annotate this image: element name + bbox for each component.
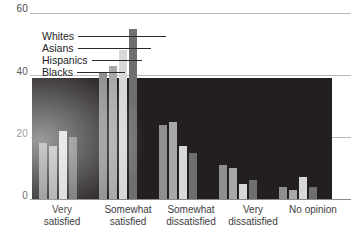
legend-leader-line bbox=[77, 72, 125, 73]
y-tick-40: 40 bbox=[4, 66, 28, 77]
legend-item-whites: Whites bbox=[42, 31, 166, 42]
x-label-line2: dissatisfied bbox=[156, 216, 226, 228]
bar-asians-2 bbox=[179, 146, 187, 199]
x-label-somewhat-satisfied: Somewhat satisfied bbox=[95, 204, 161, 228]
bar-hispanics-4 bbox=[289, 190, 297, 199]
y-tick-60: 60 bbox=[4, 3, 28, 14]
legend-leader-line bbox=[92, 60, 142, 61]
legend-label-whites: Whites bbox=[42, 31, 74, 42]
bar-hispanics-0 bbox=[49, 146, 57, 199]
x-label-line1: Somewhat bbox=[156, 204, 226, 216]
legend-item-blacks: Blacks bbox=[42, 67, 125, 78]
x-label-line2: dissatisfied bbox=[220, 216, 286, 228]
x-label-line1: No opinion bbox=[282, 204, 344, 216]
x-label-line1: Very bbox=[220, 204, 286, 216]
x-label-very-dissatisfied: Very dissatisfied bbox=[220, 204, 286, 228]
y-tick-20: 20 bbox=[4, 128, 28, 139]
x-label-line2: satisfied bbox=[33, 216, 91, 228]
legend-leader-line bbox=[78, 36, 166, 37]
bar-blacks-1 bbox=[99, 72, 107, 199]
x-axis-baseline bbox=[30, 199, 351, 200]
legend-label-hispanics: Hispanics bbox=[42, 55, 88, 66]
legend-leader-line bbox=[78, 48, 151, 49]
bar-whites-0 bbox=[69, 137, 77, 199]
bar-whites-2 bbox=[189, 153, 197, 200]
legend-label-blacks: Blacks bbox=[42, 67, 73, 78]
bar-whites-4 bbox=[309, 187, 317, 199]
bar-blacks-4 bbox=[279, 187, 287, 199]
bar-blacks-3 bbox=[219, 165, 227, 199]
bar-hispanics-3 bbox=[229, 168, 237, 199]
legend-item-hispanics: Hispanics bbox=[42, 55, 142, 66]
y-tick-0: 0 bbox=[4, 190, 28, 201]
bar-hispanics-1 bbox=[109, 66, 117, 199]
x-label-somewhat-dissatisfied: Somewhat dissatisfied bbox=[156, 204, 226, 228]
bar-asians-0 bbox=[59, 131, 67, 199]
legend-item-asians: Asians bbox=[42, 43, 151, 54]
bar-blacks-2 bbox=[159, 125, 167, 199]
x-label-line1: Somewhat bbox=[95, 204, 161, 216]
x-label-line2: satisfied bbox=[95, 216, 161, 228]
bar-whites-3 bbox=[249, 180, 257, 199]
bar-hispanics-2 bbox=[169, 122, 177, 200]
bar-asians-4 bbox=[299, 177, 307, 199]
bar-chart: 60 40 20 0 Very satisfied Somewhat satis… bbox=[0, 0, 351, 238]
bar-blacks-0 bbox=[39, 143, 47, 199]
legend-label-asians: Asians bbox=[42, 43, 74, 54]
bar-asians-3 bbox=[239, 184, 247, 200]
x-label-line1: Very bbox=[33, 204, 91, 216]
x-label-very-satisfied: Very satisfied bbox=[33, 204, 91, 228]
x-label-no-opinion: No opinion bbox=[282, 204, 344, 216]
